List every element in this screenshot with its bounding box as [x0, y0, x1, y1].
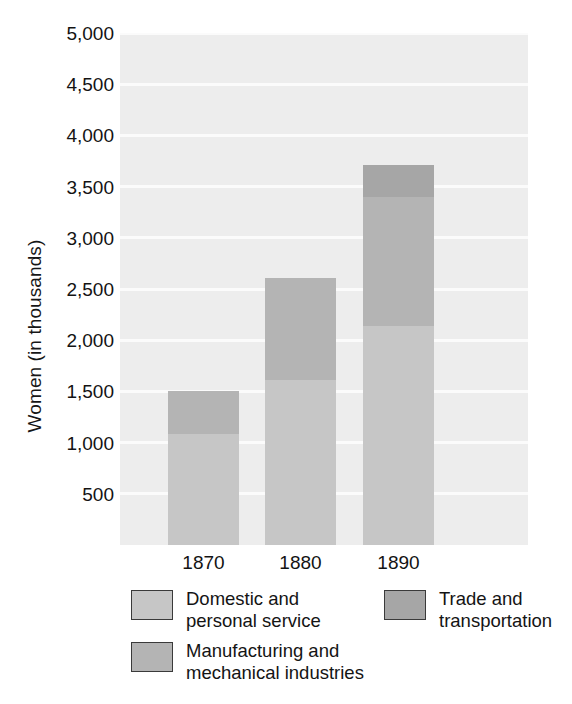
y-tick-label: 2,500	[2, 280, 114, 299]
y-axis-tick-labels: 5,0004,5004,0003,5003,0002,5002,0001,500…	[0, 0, 114, 704]
y-tick-label: 3,000	[2, 229, 114, 248]
legend-swatch-domestic-icon	[131, 590, 173, 620]
bar-group-1870[interactable]	[168, 33, 239, 545]
legend-label-domestic: Domestic and personal service	[186, 588, 321, 631]
legend-item-trade[interactable]: Trade and transportation	[384, 588, 552, 631]
y-tick-label: 2,000	[2, 331, 114, 350]
legend-item-manufacturing[interactable]: Manufacturing and mechanical industries	[131, 640, 364, 683]
bar-segment-domestic-1870[interactable]	[168, 434, 239, 545]
bar-segment-manufacturing-1890[interactable]	[363, 197, 434, 326]
bar-group-1880[interactable]	[265, 33, 336, 545]
y-tick-label: 4,500	[2, 75, 114, 94]
legend-swatch-trade-icon	[384, 590, 426, 620]
bar-segment-domestic-1880[interactable]	[265, 380, 336, 545]
y-tick-label: 5,000	[2, 24, 114, 43]
chart-legend: Domestic and personal service Manufactur…	[131, 588, 561, 692]
stacked-bar-chart: Women (in thousands) 5,0004,5004,0003,50…	[0, 0, 572, 704]
legend-item-domestic[interactable]: Domestic and personal service	[131, 588, 321, 631]
legend-label-trade: Trade and transportation	[439, 588, 552, 631]
bar-segment-manufacturing-1870[interactable]	[168, 391, 239, 434]
y-tick-label: 500	[2, 485, 114, 504]
y-tick-label: 4,000	[2, 126, 114, 145]
y-tick-label: 1,000	[2, 434, 114, 453]
bar-segment-trade-1890[interactable]	[363, 165, 434, 197]
bar-segment-domestic-1890[interactable]	[363, 326, 434, 545]
y-tick-label: 3,500	[2, 178, 114, 197]
bar-segment-manufacturing-1880[interactable]	[265, 278, 336, 380]
plot-area	[120, 33, 528, 545]
legend-swatch-manufacturing-icon	[131, 642, 173, 672]
legend-label-manufacturing: Manufacturing and mechanical industries	[186, 640, 364, 683]
bar-group-1890[interactable]	[363, 33, 434, 545]
y-tick-label: 1,500	[2, 382, 114, 401]
x-tick-label-1890: 1890	[339, 552, 459, 574]
